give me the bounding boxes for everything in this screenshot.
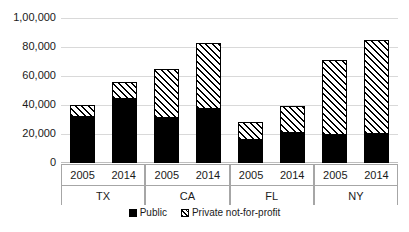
bar-chart: 1,00,000 80,000 60,000 40,000 20,000 0 2… xyxy=(0,0,409,232)
y-axis-tick-80000: 80,000 xyxy=(22,41,56,52)
gridline-80000 xyxy=(61,47,398,48)
bar-fl-2014 xyxy=(280,106,305,163)
bar-segment-private-not-for-profit xyxy=(196,43,221,110)
category-axis: 2005 2014 TX 2005 2014 CA 2005 2014 FL 2… xyxy=(61,164,398,205)
y-axis-tick-60000: 60,000 xyxy=(22,70,56,81)
gridline-100000 xyxy=(61,18,398,19)
y-axis-tick-100000: 1,00,000 xyxy=(13,12,56,23)
group-ny: 2005 2014 NY xyxy=(314,165,398,205)
year-label-ca-2005: 2005 xyxy=(146,165,187,185)
legend-swatch-public-icon xyxy=(129,209,137,217)
bar-segment-private-not-for-profit xyxy=(112,82,137,99)
legend-label-public: Public xyxy=(140,208,167,218)
legend-item-public: Public xyxy=(129,208,167,218)
y-axis-tick-40000: 40,000 xyxy=(22,99,56,110)
bar-ca-2014 xyxy=(196,43,221,163)
group-fl: 2005 2014 FL xyxy=(230,165,314,205)
bar-segment-private-not-for-profit xyxy=(70,105,95,117)
year-label-fl-2005: 2005 xyxy=(231,165,272,185)
group-label-ny: NY xyxy=(315,185,397,206)
gridline-60000 xyxy=(61,76,398,77)
bar-segment-private-not-for-profit xyxy=(364,40,389,134)
plot-area xyxy=(61,18,398,163)
year-label-ny-2005: 2005 xyxy=(315,165,356,185)
y-axis-tick-0: 0 xyxy=(50,157,56,168)
year-label-tx-2005: 2005 xyxy=(62,165,103,185)
bar-segment-public xyxy=(196,109,221,163)
year-label-ca-2014: 2014 xyxy=(187,165,228,185)
bar-ca-2005 xyxy=(154,69,179,163)
bar-segment-public xyxy=(280,133,305,163)
bar-segment-private-not-for-profit xyxy=(322,60,347,135)
bar-segment-private-not-for-profit xyxy=(280,106,305,132)
group-tx: 2005 2014 TX xyxy=(61,165,145,205)
group-label-tx: TX xyxy=(62,185,144,206)
bar-segment-public xyxy=(112,99,137,163)
bar-tx-2005 xyxy=(70,105,95,163)
group-ca: 2005 2014 CA xyxy=(145,165,229,205)
bar-segment-public xyxy=(322,135,347,163)
bar-tx-2014 xyxy=(112,82,137,163)
bar-ny-2005 xyxy=(322,60,347,163)
legend-item-private-not-for-profit: Private not-for-profit xyxy=(181,208,280,218)
bar-ny-2014 xyxy=(364,40,389,163)
bar-segment-public xyxy=(238,140,263,163)
legend: Public Private not-for-profit xyxy=(0,208,409,218)
bar-segment-public xyxy=(154,118,179,163)
bar-segment-private-not-for-profit xyxy=(154,69,179,118)
group-label-fl: FL xyxy=(231,185,313,206)
legend-swatch-private-icon xyxy=(181,209,189,217)
bar-segment-public xyxy=(70,117,95,163)
group-label-ca: CA xyxy=(146,185,228,206)
year-label-tx-2014: 2014 xyxy=(103,165,144,185)
year-label-ny-2014: 2014 xyxy=(356,165,397,185)
legend-label-private-not-for-profit: Private not-for-profit xyxy=(192,208,280,218)
year-label-fl-2014: 2014 xyxy=(272,165,313,185)
bar-segment-private-not-for-profit xyxy=(238,122,263,139)
bar-fl-2005 xyxy=(238,122,263,163)
bar-segment-public xyxy=(364,134,389,163)
y-axis-tick-20000: 20,000 xyxy=(22,128,56,139)
